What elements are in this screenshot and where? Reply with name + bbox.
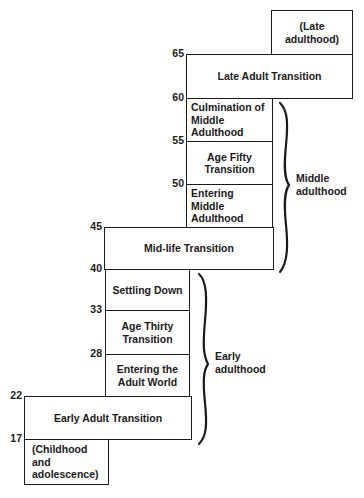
stage-entering-middle-adulthood: Entering Middle Adulthood xyxy=(186,184,273,228)
age-label-40: 40 xyxy=(82,262,102,274)
age-label-22: 22 xyxy=(2,389,22,401)
stage-culmination-middle-adulthood: Culmination of Middle Adulthood xyxy=(186,98,273,142)
stage-label: Early Adult Transition xyxy=(54,412,162,425)
stage-label: Entering Middle Adulthood xyxy=(191,187,272,225)
stage-label: Culmination of Middle Adulthood xyxy=(191,101,272,139)
age-label-55: 55 xyxy=(164,134,184,146)
stage-early-adult-transition: Early Adult Transition xyxy=(24,396,192,440)
age-label-45: 45 xyxy=(82,220,102,232)
age-label-65: 65 xyxy=(164,47,184,59)
stage-childhood-adolescence: (Childhood and adolescence) xyxy=(24,439,109,485)
age-label-50: 50 xyxy=(164,177,184,189)
stage-label: Late Adult Transition xyxy=(217,70,321,83)
era-label-middle-adulthood: Middle adulthood xyxy=(296,172,347,197)
stage-label: (Childhood and adolescence) xyxy=(32,443,108,481)
stage-entering-adult-world: Entering the Adult World xyxy=(105,354,190,397)
early-adulthood-brace-icon xyxy=(195,271,213,447)
age-label-33: 33 xyxy=(82,303,102,315)
stage-label: (Late adulthood) xyxy=(272,20,352,45)
stage-age-fifty-transition: Age Fifty Transition xyxy=(186,141,273,185)
stage-label: Mid-life Transition xyxy=(144,242,234,255)
age-label-60: 60 xyxy=(164,91,184,103)
stage-label: Age Thirty Transition xyxy=(122,320,174,345)
stage-settling-down: Settling Down xyxy=(105,269,190,311)
stage-label: Entering the Adult World xyxy=(117,363,178,388)
stage-late-adulthood: (Late adulthood) xyxy=(271,10,353,55)
stage-mid-life-transition: Mid-life Transition xyxy=(104,227,274,270)
stage-late-adult-transition: Late Adult Transition xyxy=(186,54,353,99)
stage-age-thirty-transition: Age Thirty Transition xyxy=(105,310,190,355)
stage-label: Settling Down xyxy=(113,284,183,297)
era-label-early-adulthood: Early adulthood xyxy=(215,350,266,375)
stage-label: Age Fifty Transition xyxy=(204,151,254,176)
age-label-17: 17 xyxy=(2,432,22,444)
age-label-28: 28 xyxy=(82,347,102,359)
middle-adulthood-brace-icon xyxy=(276,100,294,275)
